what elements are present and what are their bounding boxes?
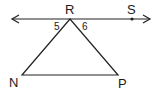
label-p: P	[118, 76, 127, 91]
label-r: R	[65, 2, 74, 17]
point-s-dot	[130, 17, 133, 20]
triangle-nrp	[22, 19, 118, 75]
angle-6-label: 6	[82, 21, 88, 32]
angle-5-label: 5	[54, 21, 60, 32]
geometry-diagram: R S N P 5 6	[0, 0, 156, 91]
label-n: N	[9, 75, 18, 90]
label-s: S	[127, 2, 136, 17]
